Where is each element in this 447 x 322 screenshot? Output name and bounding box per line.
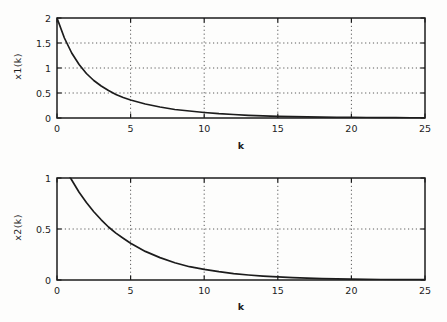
x-tick-label: 5 xyxy=(128,285,134,296)
x-tick-label: 0 xyxy=(54,123,60,134)
x-tick-label: 5 xyxy=(128,123,134,134)
y-tick-label: 0.5 xyxy=(36,88,51,99)
x-axis-label-x1: k xyxy=(57,140,425,151)
x-tick-label: 25 xyxy=(419,123,431,134)
plot-canvas-x1: 051015202500.511.52 xyxy=(0,0,447,161)
x-tick-label: 25 xyxy=(419,285,431,296)
x-tick-label: 20 xyxy=(345,123,357,134)
y-tick-label: 1.5 xyxy=(36,38,51,49)
y-tick-label: 0.5 xyxy=(36,224,51,235)
data-curve xyxy=(57,161,425,280)
y-tick-label: 1 xyxy=(45,173,51,184)
y-tick-label: 0 xyxy=(45,113,51,124)
x-axis-label-x2: k xyxy=(57,301,425,312)
matlab-figure: x1(k) 051015202500.511.52 k x2(k) 051015… xyxy=(0,0,447,322)
subplot-x2: x2(k) 051015202500.51 k xyxy=(0,161,447,322)
subplot-x1: x1(k) 051015202500.511.52 k xyxy=(0,0,447,161)
y-tick-label: 0 xyxy=(45,275,51,286)
plot-canvas-x2: 051015202500.51 xyxy=(0,161,447,322)
x-tick-label: 10 xyxy=(198,123,210,134)
y-tick-label: 1 xyxy=(45,63,51,74)
y-tick-label: 2 xyxy=(45,13,51,24)
x-tick-label: 0 xyxy=(54,285,60,296)
x-tick-label: 10 xyxy=(198,285,210,296)
x-tick-label: 20 xyxy=(345,285,357,296)
x-tick-label: 15 xyxy=(272,123,284,134)
x-tick-label: 15 xyxy=(272,285,284,296)
